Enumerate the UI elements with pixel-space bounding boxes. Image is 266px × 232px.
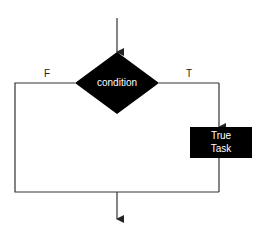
task-label-line1: True <box>190 130 252 141</box>
true-label: T <box>186 68 192 79</box>
decision-label: condition <box>87 77 147 88</box>
false-label: F <box>44 68 50 79</box>
flowchart <box>0 0 266 232</box>
task-label-line2: Task <box>190 143 252 154</box>
